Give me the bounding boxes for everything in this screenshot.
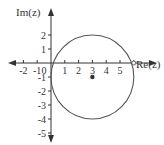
points: [90, 61, 136, 79]
x-axis-left-arrow-icon: [8, 60, 16, 66]
y-tick-label: 2: [41, 30, 46, 41]
x-axis-label: Re(z): [136, 58, 161, 71]
y-axis-up-arrow-icon: [48, 8, 54, 16]
x-tick-label: -2: [19, 65, 27, 76]
y-axis-label: Im(z): [16, 6, 41, 19]
y-tick-label: -1: [38, 72, 46, 83]
y-tick-label: -3: [38, 100, 46, 111]
y-tick-label: -5: [38, 128, 46, 139]
x-tick-label: 1: [62, 65, 67, 76]
y-axis-down-arrow-icon: [48, 135, 54, 143]
x-tick-label: 2: [76, 65, 81, 76]
center-point-dot: [90, 75, 94, 79]
x-tick-label: 4: [104, 65, 109, 76]
ticks: -2-101234521-1-2-3-4-5: [19, 30, 134, 139]
axes: [8, 8, 157, 143]
y-tick-label: -2: [38, 86, 46, 97]
y-tick-label: 1: [41, 44, 46, 55]
y-tick-label: -4: [38, 114, 46, 125]
complex-plane-diagram: -2-101234521-1-2-3-4-5 Re(z) Im(z): [0, 0, 164, 145]
labels: Re(z) Im(z): [16, 6, 161, 71]
x-tick-label: 3: [90, 65, 95, 76]
x-tick-label: 5: [118, 65, 123, 76]
